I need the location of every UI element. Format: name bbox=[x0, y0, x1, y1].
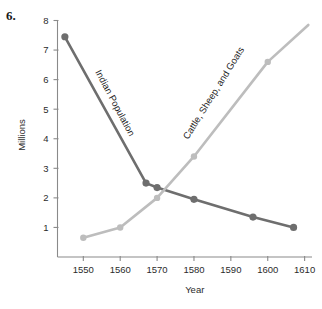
y-tick-label: 6 bbox=[43, 74, 48, 85]
data-point-marker bbox=[61, 33, 68, 40]
data-point-marker bbox=[80, 235, 86, 241]
x-tick-label: 1570 bbox=[147, 264, 168, 275]
series-inline-labels: Indian PopulationCattle, Sheep, and Goat… bbox=[93, 45, 246, 142]
y-axis-title: Millions bbox=[16, 119, 27, 151]
x-tick-label: 1600 bbox=[257, 264, 278, 275]
figure-container: 6. 12345678 1550156015701580159016001610… bbox=[0, 0, 322, 309]
x-tick-label: 1560 bbox=[110, 264, 131, 275]
x-tick-label: 1590 bbox=[220, 264, 241, 275]
y-axis-ticks: 12345678 bbox=[43, 15, 58, 233]
y-tick-label: 2 bbox=[43, 192, 48, 203]
line-chart: 12345678 1550156015701580159016001610 In… bbox=[0, 0, 322, 309]
x-tick-label: 1610 bbox=[294, 264, 315, 275]
data-point-marker bbox=[153, 184, 160, 191]
x-tick-label: 1580 bbox=[183, 264, 204, 275]
data-series bbox=[61, 33, 297, 231]
data-point-marker bbox=[265, 59, 271, 65]
data-point-marker bbox=[290, 224, 297, 231]
y-tick-label: 1 bbox=[43, 222, 48, 233]
data-point-marker bbox=[154, 195, 160, 201]
series-line bbox=[65, 37, 294, 228]
data-point-marker bbox=[117, 224, 123, 230]
data-point-marker bbox=[142, 179, 149, 186]
y-tick-label: 5 bbox=[43, 104, 48, 115]
y-tick-label: 3 bbox=[43, 163, 48, 174]
data-point-marker bbox=[190, 196, 197, 203]
data-point-marker bbox=[249, 213, 256, 220]
x-axis-title: Year bbox=[185, 284, 204, 295]
x-tick-label: 1550 bbox=[73, 264, 94, 275]
series-label-cattle-sheep-goats: Cattle, Sheep, and Goats bbox=[180, 45, 246, 142]
y-tick-label: 7 bbox=[43, 44, 48, 55]
y-tick-label: 4 bbox=[43, 133, 48, 144]
data-point-marker bbox=[191, 153, 197, 159]
y-tick-label: 8 bbox=[43, 15, 48, 26]
x-axis-ticks: 1550156015701580159016001610 bbox=[73, 256, 315, 275]
